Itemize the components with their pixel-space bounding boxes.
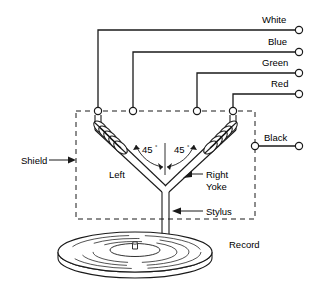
record-label: Record: [229, 239, 260, 250]
black-tap-junction: [251, 142, 258, 149]
blue-terminal-circle: [295, 48, 302, 55]
lead-wires-group: [98, 30, 295, 146]
yoke-label: Yoke: [206, 181, 227, 192]
red-terminal-label: Red: [271, 78, 288, 89]
red-wire: [233, 94, 295, 111]
callout-leaders: [49, 157, 203, 215]
stylus-label: Stylus: [206, 206, 232, 217]
diagram-canvas: White Blue Green Red Black Shield Left R…: [0, 0, 318, 286]
record-disc: [58, 232, 212, 278]
phono-cartridge-diagram: White Blue Green Red Black Shield Left R…: [0, 0, 318, 286]
angle-left-degree-symbol: °: [155, 144, 158, 150]
black-terminal-label: Black: [264, 132, 287, 143]
angle-arrow-right-outer: [190, 145, 197, 150]
white-terminal-circle: [295, 26, 302, 33]
left-coil: [91, 119, 129, 157]
shield-arrowhead: [68, 157, 76, 164]
right-label: Right: [206, 169, 229, 180]
green-terminal-label: Green: [262, 57, 288, 68]
stylus-arrowhead: [172, 208, 181, 215]
shield-label: Shield: [21, 155, 47, 166]
blue-terminal-label: Blue: [268, 36, 287, 47]
red-tap-junction: [229, 107, 236, 114]
white-tap-junction: [94, 107, 101, 114]
text-labels: White Blue Green Red Black Shield Left R…: [21, 14, 288, 250]
green-tap-junction: [193, 107, 200, 114]
terminal-circles-group: [295, 26, 302, 149]
red-terminal-circle: [295, 90, 302, 97]
black-terminal-circle: [295, 142, 302, 149]
angle-left-value: 45: [142, 144, 153, 155]
blue-tap-junction: [129, 107, 136, 114]
angle-arrow-left-outer: [133, 145, 140, 150]
right-coil: [201, 119, 239, 157]
white-terminal-label: White: [262, 14, 286, 25]
left-label: Left: [109, 169, 125, 180]
green-terminal-circle: [295, 69, 302, 76]
angle-right-degree-symbol: °: [187, 144, 190, 150]
angle-right-value: 45: [174, 144, 185, 155]
